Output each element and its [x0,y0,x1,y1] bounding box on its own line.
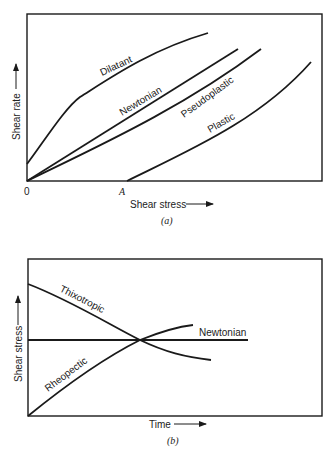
svg-text:Time: Time [149,419,171,430]
svg-text:Shear stress: Shear stress [130,199,186,210]
y-axis-label-b: Shear stress [13,296,24,382]
caption-b: (b) [167,435,179,447]
label-newtonian-b: Newtonian [199,327,246,338]
x-axis-label-a: Shear stress [130,199,213,210]
origin-label: 0 [24,186,30,197]
y-axis-label-a: Shear rate [11,64,22,140]
curve-rheopectic [28,325,193,416]
curve-newtonian [27,49,238,181]
svg-text:Shear stress: Shear stress [13,326,24,382]
panel-a: Dilatant Newtonian Pseudoplastic Plastic… [11,14,322,227]
rheology-diagram: Dilatant Newtonian Pseudoplastic Plastic… [0,0,333,451]
svg-text:Shear rate: Shear rate [11,93,22,140]
label-plastic: Plastic [206,110,237,134]
panel-a-frame [27,14,322,181]
curve-thixotropic [28,284,211,360]
tick-a-label: A [118,186,126,197]
panel-b: Thixotropic Newtonian Rheopectic Shear s… [13,259,322,447]
curve-dilatant [27,33,208,164]
x-axis-label-b: Time [149,419,206,430]
panel-b-frame [28,259,322,416]
caption-a: (a) [161,215,173,227]
